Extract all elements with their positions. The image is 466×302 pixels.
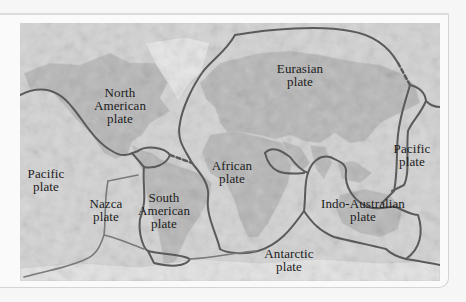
label-pacific-plate-east: Pacific plate xyxy=(394,142,431,168)
label-african-plate: African plate xyxy=(212,159,252,185)
label-antarctic-plate: Antarctic plate xyxy=(264,247,313,273)
label-north-american-plate: North American plate xyxy=(94,86,146,125)
label-pacific-plate-west: Pacific plate xyxy=(28,167,65,193)
label-nazca-plate: Nazca plate xyxy=(90,197,123,223)
label-eurasian-plate: Eurasian plate xyxy=(277,62,323,88)
label-indo-australian-plate: Indo-Australian plate xyxy=(321,197,405,223)
map-graphic xyxy=(20,23,440,281)
label-south-american-plate: South American plate xyxy=(138,191,190,230)
tectonic-plates-map: North American plate Eurasian plate Paci… xyxy=(20,23,440,281)
relief-texture xyxy=(20,23,440,281)
